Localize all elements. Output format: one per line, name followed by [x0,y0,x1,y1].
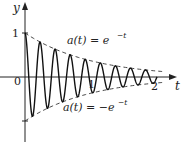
upper-envelope-exponent: −t [117,31,127,40]
t-axis-label: t [175,79,180,93]
damped-oscillation-chart: y t 0 1 1 2 a(t) = e −t a(t) = −e −t [0,0,183,145]
lower-envelope-text: a(t) = −e [63,101,115,114]
y-one-label: 1 [12,27,19,40]
t-two-label: 2 [151,80,158,93]
origin-label: 0 [14,75,21,88]
lower-envelope-annotation: a(t) = −e −t [63,98,128,114]
upper-envelope-annotation: a(t) = e −t [67,31,127,47]
y-axis-label: y [12,1,20,15]
y-axis-arrow-icon [22,2,28,10]
lower-envelope-exponent: −t [118,98,128,107]
t-one-label: 1 [88,78,95,91]
upper-envelope-text: a(t) = e [67,34,110,47]
